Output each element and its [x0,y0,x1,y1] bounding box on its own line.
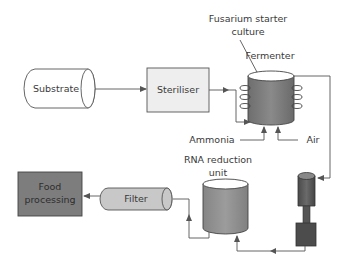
filter-label: Filter [124,193,148,204]
food-processing-label-1: Food [39,181,62,192]
filter-node: Filter [100,188,172,210]
rna-reduction-node [203,179,248,234]
process-diagram: Substrate Steriliser Fusarium starter cu… [0,0,351,269]
rna-unit-label-2: unit [209,167,228,178]
arrowhead-up [186,214,192,221]
air-label: Air [306,134,319,145]
separator-node [296,173,316,247]
arrow-separator-to-rna-unit [237,236,305,251]
rna-unit-label-1: RNA reduction [184,154,252,165]
ammonia-label: Ammonia [189,134,234,145]
arrowhead-mid-2 [270,248,276,254]
starter-culture-label-2: culture [231,26,264,37]
substrate-node: Substrate [24,69,95,108]
food-processing-node: Food processing [18,172,82,216]
arrowhead-mid [223,87,229,93]
substrate-label: Substrate [33,83,79,94]
fermenter-node [240,71,302,125]
starter-culture-label-1: Fusarium starter [209,13,288,24]
fermenter-label: Fermenter [245,50,294,61]
arrow-ammonia-to-fermenter [240,127,264,140]
arrow-fermenter-to-separator [294,76,330,178]
steriliser-label: Steriliser [157,84,199,95]
steriliser-node: Steriliser [147,68,209,112]
food-processing-label-2: processing [24,194,75,205]
arrow-air-to-fermenter [278,127,298,140]
